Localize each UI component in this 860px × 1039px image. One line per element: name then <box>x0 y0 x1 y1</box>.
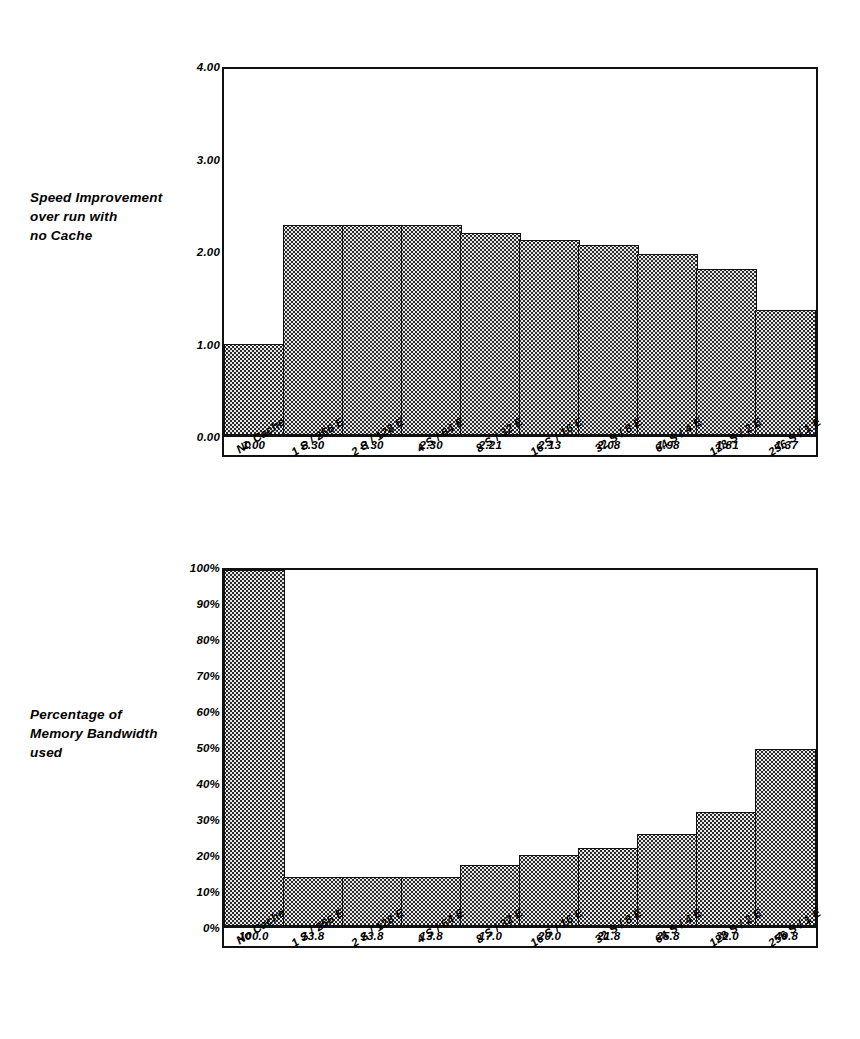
y-tick-label: 60% <box>196 706 220 718</box>
y-axis-ticks-memory-bandwidth: 0%10%20%30%40%50%60%70%80%90%100% <box>174 568 220 928</box>
bar <box>755 749 816 926</box>
figure-page: { "figure": { "background_color": "#ffff… <box>0 0 860 1039</box>
y-tick-label: 20% <box>196 850 220 862</box>
bar <box>696 812 757 926</box>
y-tick-label: 0% <box>203 922 220 934</box>
plot-area-memory-bandwidth <box>222 568 818 928</box>
y-tick-label: 70% <box>196 670 220 682</box>
y-tick-label: 50% <box>196 742 220 754</box>
y-tick-label: 100% <box>190 562 220 574</box>
x-axis-categories-memory-bandwidth: No Cache1 S / 256 E2 S / 128 E4 S / 64 E… <box>222 950 818 951</box>
y-tick-label: 90% <box>196 598 220 610</box>
bar <box>224 570 285 926</box>
y-tick-label: 30% <box>196 814 220 826</box>
y-tick-label: 40% <box>196 778 220 790</box>
y-tick-label: 80% <box>196 634 220 646</box>
y-tick-label: 10% <box>196 886 220 898</box>
chart-memory-bandwidth: Percentage of Memory Bandwidth used 0%10… <box>0 0 860 1039</box>
x-category-slot: 256 S / 1 E <box>758 950 818 951</box>
bar-series-memory-bandwidth <box>224 570 816 926</box>
